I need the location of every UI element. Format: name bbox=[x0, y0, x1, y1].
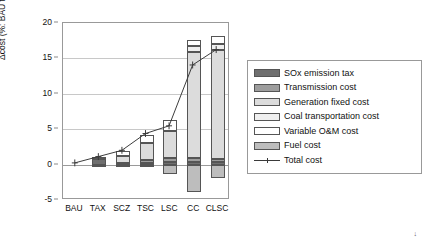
legend: SOx emission taxTransmission costGenerat… bbox=[247, 60, 422, 174]
bar-segment-genfix[interactable] bbox=[187, 52, 201, 157]
legend-items: SOx emission taxTransmission costGenerat… bbox=[254, 66, 415, 153]
bar-segment-genfix[interactable] bbox=[163, 131, 177, 158]
y-tick-label: -5 bbox=[44, 194, 52, 204]
y-tick-mark bbox=[54, 163, 58, 164]
bar-group-lsc[interactable] bbox=[163, 23, 177, 198]
swatch-transmission-icon bbox=[254, 84, 280, 92]
y-tick-mark bbox=[54, 22, 58, 23]
bar-segment-coal[interactable] bbox=[187, 46, 201, 52]
bar-segment-trans[interactable] bbox=[187, 158, 201, 162]
x-tick-label-lsc: LSC bbox=[161, 203, 178, 213]
x-tick-label-bau: BAU bbox=[65, 203, 82, 213]
legend-item-total-cost: Total cost bbox=[254, 153, 415, 168]
bar-segment-genfix[interactable] bbox=[211, 50, 225, 159]
bar-segment-trans[interactable] bbox=[211, 159, 225, 163]
bar-segment-fuel[interactable] bbox=[92, 165, 106, 167]
legend-item-variable-om[interactable]: Variable O&M cost bbox=[254, 124, 415, 139]
bar-group-bau[interactable] bbox=[68, 23, 82, 198]
bar-group-tax[interactable] bbox=[92, 23, 106, 198]
y-axis-ticks: -505101520 bbox=[0, 22, 58, 199]
bar-group-clsc[interactable] bbox=[211, 23, 225, 198]
legend-item-fuel[interactable]: Fuel cost bbox=[254, 139, 415, 154]
bar-segment-fuel[interactable] bbox=[140, 165, 154, 167]
bar-segment-genfix[interactable] bbox=[116, 156, 130, 163]
bar-segment-vom[interactable] bbox=[116, 151, 130, 156]
corner-mark: ↓ bbox=[414, 230, 418, 237]
plot-area bbox=[62, 22, 229, 199]
legend-label: SOx emission tax bbox=[284, 69, 354, 78]
bar-segment-vom[interactable] bbox=[140, 135, 154, 143]
swatch-fuel-icon bbox=[254, 142, 280, 150]
bar-segment-trans[interactable] bbox=[140, 160, 154, 163]
y-tick-mark bbox=[54, 199, 58, 200]
y-tick-mark bbox=[54, 57, 58, 58]
bar-segment-vom[interactable] bbox=[163, 120, 177, 131]
x-tick-label-scz: SCZ bbox=[113, 203, 130, 213]
x-tick-label-tax: TAX bbox=[90, 203, 106, 213]
bar-group-tsc[interactable] bbox=[140, 23, 154, 198]
bar-segment-genfix[interactable] bbox=[140, 143, 154, 159]
y-tick-label: 20 bbox=[43, 17, 52, 27]
x-tick-label-tsc: TSC bbox=[137, 203, 154, 213]
y-tick-label: 5 bbox=[47, 123, 52, 133]
x-tick-label-cc: CC bbox=[187, 203, 199, 213]
total-cost-line-icon bbox=[254, 156, 280, 164]
bar-group-scz[interactable] bbox=[116, 23, 130, 198]
legend-item-generation-fixed[interactable]: Generation fixed cost bbox=[254, 95, 415, 110]
bar-segment-fuel[interactable] bbox=[163, 165, 177, 175]
legend-label: Fuel cost bbox=[284, 141, 321, 150]
y-tick-mark bbox=[54, 128, 58, 129]
legend-label-total-cost: Total cost bbox=[284, 156, 322, 165]
bar-segment-coal[interactable] bbox=[211, 44, 225, 50]
swatch-variable-om-icon bbox=[254, 127, 280, 135]
bar-segment-fuel[interactable] bbox=[116, 165, 130, 167]
legend-label: Transmission cost bbox=[284, 83, 356, 92]
bar-group-cc[interactable] bbox=[187, 23, 201, 198]
bars-layer bbox=[63, 23, 228, 198]
bar-segment-vom[interactable] bbox=[211, 36, 225, 43]
swatch-generation-fixed-icon bbox=[254, 98, 280, 106]
x-axis-labels: BAUTAXSCZTSCLSCCCCLSC bbox=[62, 203, 229, 217]
chart-root: Δcost (%: BAU total cost = 100%) -505101… bbox=[0, 0, 430, 247]
swatch-coal-transportation-icon bbox=[254, 113, 280, 121]
swatch-sox-icon bbox=[254, 69, 280, 77]
bar-segment-fuel[interactable] bbox=[187, 165, 201, 193]
legend-label: Coal transportation cost bbox=[284, 112, 379, 121]
bar-segment-vom[interactable] bbox=[92, 157, 106, 159]
y-tick-label: 15 bbox=[43, 52, 52, 62]
y-tick-label: 0 bbox=[47, 159, 52, 169]
y-tick-mark bbox=[54, 92, 58, 93]
bar-segment-fuel[interactable] bbox=[211, 165, 225, 178]
legend-item-transmission[interactable]: Transmission cost bbox=[254, 81, 415, 96]
bar-segment-vom[interactable] bbox=[187, 40, 201, 46]
legend-item-sox[interactable]: SOx emission tax bbox=[254, 66, 415, 81]
bar-segment-trans[interactable] bbox=[163, 158, 177, 163]
legend-label: Generation fixed cost bbox=[284, 98, 369, 107]
legend-label: Variable O&M cost bbox=[284, 127, 358, 136]
y-tick-label: 10 bbox=[43, 88, 52, 98]
legend-item-coal-transportation[interactable]: Coal transportation cost bbox=[254, 110, 415, 125]
x-tick-label-clsc: CLSC bbox=[206, 203, 229, 213]
